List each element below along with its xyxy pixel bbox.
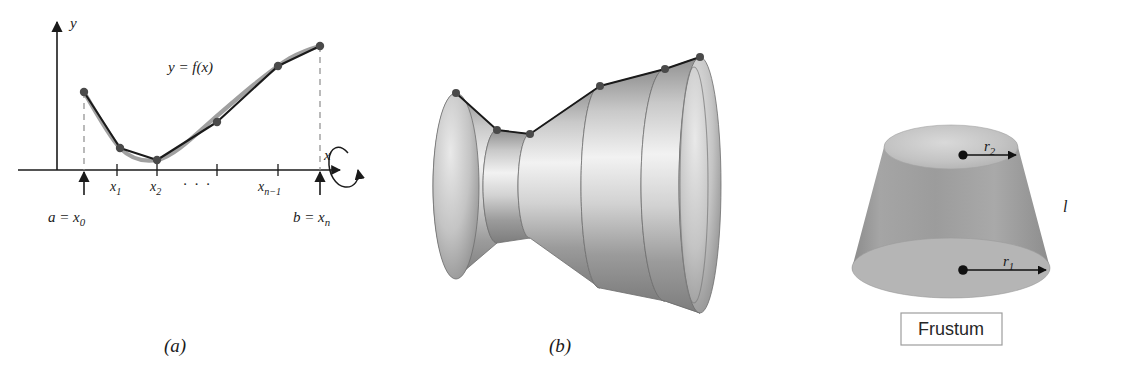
frustum-label-box: Frustum (901, 313, 1002, 345)
endpoint-label-right: b = xn (293, 209, 330, 228)
panel-c: r2 r1 l Frustum (852, 125, 1068, 345)
panel-b: (b) (433, 53, 721, 357)
vertex-point (213, 118, 221, 126)
panel-b-caption: (b) (549, 335, 571, 357)
vertex-point (526, 130, 534, 138)
frustum-top-ellipse (884, 125, 1018, 169)
y-axis: y (57, 15, 77, 170)
vertex-point (116, 144, 124, 152)
vertex-point (316, 42, 324, 50)
figure-svg: y x (0, 0, 1122, 370)
panel-a: y x (18, 15, 358, 357)
vertex-point (661, 65, 669, 73)
vertex-point (696, 53, 704, 61)
y-axis-label: y (68, 15, 77, 31)
vertex-point (493, 126, 501, 134)
vertex-point (274, 62, 282, 70)
vertex-point (596, 82, 604, 90)
panel-a-caption: (a) (164, 335, 186, 357)
slant-height-label: l (1063, 198, 1068, 215)
vertex-point (80, 88, 88, 96)
revolution-arrow-icon (329, 147, 358, 187)
endpoint-labels: a = x0 b = xn (48, 209, 330, 228)
tick-label-x1: x1 (109, 179, 121, 197)
vertex-point (153, 156, 161, 164)
endpoint-label-left: a = x0 (48, 209, 86, 228)
tick-label-x2: x2 (149, 179, 161, 197)
ellipsis-dots: · · · (183, 176, 212, 192)
vertex-point (452, 89, 460, 97)
figure-root: y x (0, 0, 1122, 370)
tick-label-xn-1: xn−1 (257, 179, 281, 197)
left-opening-disc (433, 93, 479, 279)
function-label: y = f(x) (166, 59, 213, 76)
frustum-label-text: Frustum (918, 319, 984, 339)
